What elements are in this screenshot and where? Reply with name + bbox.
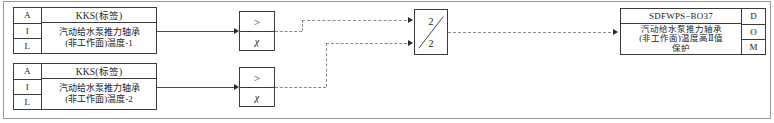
arrowhead-voter-top-input (408, 17, 413, 23)
input-block-2-description-line-1: 汽动给水泵推力轴承 (59, 83, 140, 94)
output-block-content: SDFWPS−BO37 汽动给水泵推力轴承 (非工作面)温度高Ⅱ值 保护 (621, 9, 741, 54)
output-block-tag: SDFWPS−BO37 (621, 9, 741, 24)
voting-block-2oo2[interactable]: 2 2 (414, 9, 448, 55)
wire-comparator1-segment-h2 (302, 20, 412, 21)
input-block-2[interactable]: A I L KKS(标签) 汽动给水泵推力轴承 (非工作面)温度-2 (13, 63, 157, 110)
output-block-label-m: M (742, 39, 765, 54)
wire-comparator2-segment-h2 (326, 43, 412, 44)
wire-voter-to-output (448, 32, 616, 33)
arrowhead-output-input (613, 29, 618, 35)
input-block-1[interactable]: A I L KKS(标签) 汽动给水泵推力轴承 (非工作面)温度-1 (13, 7, 157, 54)
comparator-1-setpoint-symbol: χ (240, 31, 274, 50)
wire-comparator1-segment-h1 (275, 31, 302, 32)
output-block-label-o: O (742, 24, 765, 39)
wire-comparator2-segment-v (326, 43, 327, 87)
output-block-description-line-3: 保护 (672, 44, 690, 53)
input-block-1-description-line-2: (非工作面)温度-1 (65, 38, 133, 49)
comparator-block-2[interactable]: > χ (239, 67, 275, 107)
arrowhead-voter-bottom-input (408, 40, 413, 46)
comparator-2-operator: > (240, 68, 274, 87)
input-block-1-label-a: A (14, 8, 41, 23)
comparator-block-1[interactable]: > χ (239, 11, 275, 51)
voter-top-value: 2 (415, 10, 447, 32)
wire-input1-to-comparator1 (157, 31, 237, 32)
output-block-row-labels: D O M (741, 9, 765, 54)
input-block-1-label-l: L (14, 38, 41, 53)
input-block-1-content: KKS(标签) 汽动给水泵推力轴承 (非工作面)温度-1 (42, 8, 156, 53)
input-block-2-description-line-2: (非工作面)温度-2 (65, 94, 133, 105)
input-block-1-row-labels: A I L (14, 8, 42, 53)
output-block-description: 汽动给水泵推力轴承 (非工作面)温度高Ⅱ值 保护 (621, 24, 741, 54)
input-block-1-description: 汽动给水泵推力轴承 (非工作面)温度-1 (42, 23, 156, 53)
wire-comparator1-segment-v (302, 20, 303, 31)
logic-diagram-canvas: A I L KKS(标签) 汽动给水泵推力轴承 (非工作面)温度-1 A I L… (0, 0, 774, 123)
input-block-2-label-l: L (14, 94, 41, 109)
output-block-label-d: D (742, 9, 765, 24)
voter-bottom-value: 2 (415, 32, 447, 54)
input-block-1-kks: KKS(标签) (42, 8, 156, 23)
output-block[interactable]: SDFWPS−BO37 汽动给水泵推力轴承 (非工作面)温度高Ⅱ值 保护 D O… (620, 8, 766, 55)
input-block-2-label-a: A (14, 64, 41, 79)
comparator-1-operator: > (240, 12, 274, 31)
wire-input2-to-comparator2 (157, 87, 237, 88)
input-block-2-label-i: I (14, 79, 41, 94)
comparator-2-setpoint-symbol: χ (240, 87, 274, 106)
input-block-2-description: 汽动给水泵推力轴承 (非工作面)温度-2 (42, 79, 156, 109)
input-block-2-kks: KKS(标签) (42, 64, 156, 79)
input-block-1-description-line-1: 汽动给水泵推力轴承 (59, 27, 140, 38)
input-block-1-label-i: I (14, 23, 41, 38)
wire-comparator2-segment-h1 (275, 87, 326, 88)
input-block-2-row-labels: A I L (14, 64, 42, 109)
input-block-2-content: KKS(标签) 汽动给水泵推力轴承 (非工作面)温度-2 (42, 64, 156, 109)
